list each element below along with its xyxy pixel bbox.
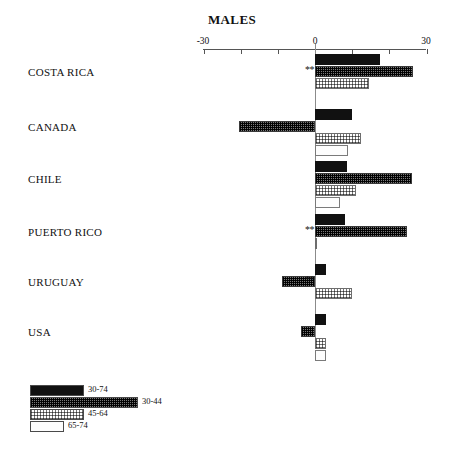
category-label: PUERTO RICO — [28, 226, 102, 238]
bar-group: USA — [0, 314, 458, 362]
bar-group: PUERTO RICO** — [0, 214, 458, 262]
bar-30-44-puerto-rico — [315, 226, 407, 237]
legend-swatch — [30, 409, 84, 420]
category-label: URUGUAY — [28, 276, 84, 288]
legend-item: 30-74 — [30, 385, 260, 396]
bar-65-74-usa — [315, 350, 326, 361]
bar-30-74-canada — [315, 109, 352, 120]
bar-group: CHILE — [0, 161, 458, 209]
chart-title-text: MALES — [208, 12, 256, 27]
bar-65-74-canada — [315, 145, 348, 156]
legend-label: 65-74 — [68, 420, 88, 430]
bar-30-74-uruguay — [315, 264, 326, 275]
bar-45-64-canada — [315, 133, 361, 144]
bar-45-64-chile — [315, 185, 356, 196]
plot-area: COSTA RICA**CANADACHILEPUERTO RICO**URUG… — [0, 49, 458, 349]
legend-item: 45-64 — [30, 409, 260, 420]
bar-45-64-usa — [315, 338, 326, 349]
bar-30-74-puerto-rico — [315, 214, 345, 225]
bar-30-44-costa-rica — [315, 66, 413, 77]
bar-45-64-puerto-rico — [315, 238, 317, 249]
legend-label: 30-44 — [142, 396, 162, 406]
horizontal-bar-chart: MALES -30 0 30 COSTA RICA**CANADACHILEPU… — [0, 0, 458, 461]
category-label: USA — [28, 326, 51, 338]
legend-swatch — [30, 421, 64, 432]
chart-legend: 30-7430-4445-6465-74 — [30, 385, 260, 431]
bar-45-64-uruguay — [315, 288, 352, 299]
significance-marker: ** — [305, 226, 314, 234]
chart-title: MALES — [0, 12, 458, 28]
bar-30-44-usa — [301, 326, 315, 337]
legend-label: 45-64 — [88, 408, 108, 418]
x-tick-label-max: 30 — [421, 36, 431, 46]
legend-swatch — [30, 397, 138, 408]
bar-group: CANADA — [0, 109, 458, 157]
legend-item: 65-74 — [30, 421, 260, 432]
bar-65-74-chile — [315, 197, 340, 208]
category-label: COSTA RICA — [28, 66, 95, 78]
bar-45-64-costa-rica — [315, 78, 369, 89]
bar-group: COSTA RICA** — [0, 54, 458, 102]
bar-group: URUGUAY** — [0, 264, 458, 312]
bar-30-74-costa-rica — [315, 54, 380, 65]
category-label: CANADA — [28, 121, 77, 133]
bar-30-44-canada — [239, 121, 315, 132]
category-label: CHILE — [28, 173, 62, 185]
x-tick-label-min: -30 — [197, 36, 210, 46]
bar-30-74-usa — [315, 314, 326, 325]
legend-label: 30-74 — [88, 384, 108, 394]
bar-30-44-chile — [315, 173, 412, 184]
legend-swatch — [30, 385, 84, 396]
bar-30-74-chile — [315, 161, 347, 172]
significance-marker: ** — [305, 276, 314, 284]
significance-marker: ** — [305, 66, 314, 74]
legend-item: 30-44 — [30, 397, 260, 408]
